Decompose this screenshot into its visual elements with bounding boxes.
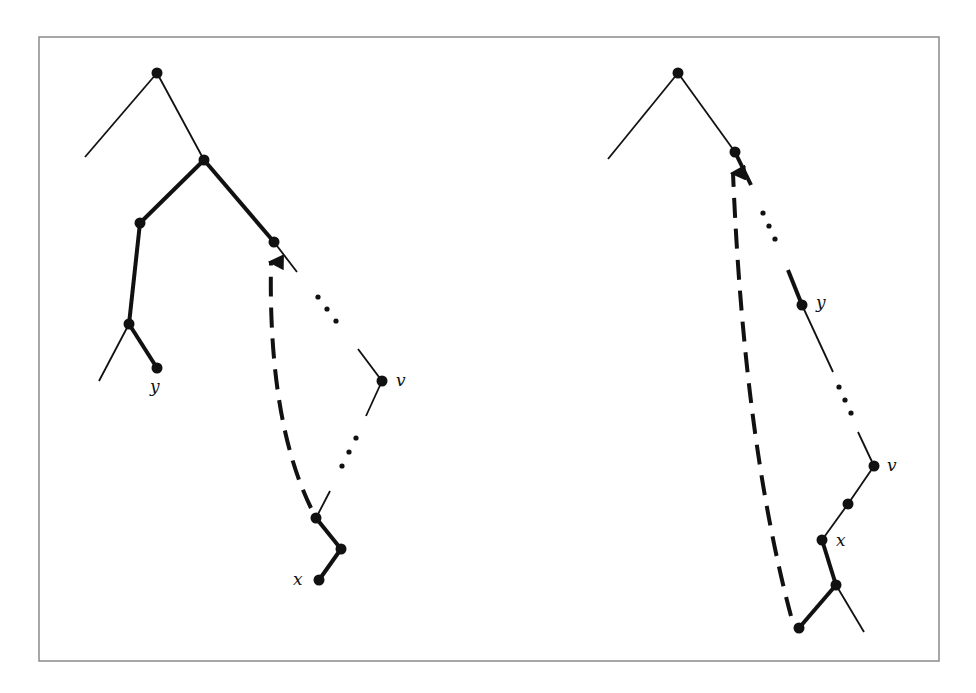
- node: [673, 68, 684, 79]
- edge: [85, 73, 157, 157]
- ellipsis-dots: [836, 384, 853, 415]
- path-edge: [140, 160, 204, 223]
- edge: [678, 73, 735, 152]
- label-y: y: [149, 376, 160, 396]
- node-y: [797, 300, 808, 311]
- label-x: x: [836, 530, 846, 550]
- edge: [157, 73, 204, 160]
- path-edge: [822, 540, 836, 585]
- edge: [274, 242, 297, 272]
- ellipsis-dots: [760, 210, 777, 241]
- label-y: y: [815, 292, 826, 312]
- edge: [802, 305, 833, 372]
- path-edge: [129, 324, 157, 368]
- figure-frame: [39, 37, 939, 661]
- back-edge-arrow: [733, 173, 791, 616]
- edge: [858, 432, 874, 466]
- node-v: [869, 461, 880, 472]
- label-v: v: [887, 455, 897, 475]
- node: [336, 544, 347, 555]
- node: [269, 237, 280, 248]
- node: [730, 147, 741, 158]
- edge: [99, 324, 129, 381]
- right-tree: y v x: [608, 68, 897, 634]
- ellipsis-dots: [315, 294, 338, 323]
- path-edge: [788, 270, 802, 305]
- edge: [836, 585, 864, 632]
- node: [199, 155, 210, 166]
- node: [794, 623, 805, 634]
- path-edge: [799, 585, 836, 628]
- label-x: x: [293, 569, 303, 589]
- path-edge: [316, 518, 341, 549]
- node: [124, 319, 135, 330]
- node: [831, 580, 842, 591]
- edge: [366, 381, 382, 416]
- edge: [608, 73, 678, 159]
- path-edge: [319, 549, 341, 580]
- path-edge: [735, 152, 751, 185]
- back-edge-arrow: [271, 262, 311, 508]
- tree-diagram: y v x y: [0, 0, 976, 693]
- path-edge: [204, 160, 274, 242]
- node-x: [314, 575, 325, 586]
- node-x: [817, 535, 828, 546]
- edge: [358, 349, 382, 381]
- node: [152, 68, 163, 79]
- edge: [848, 466, 874, 504]
- left-tree: y v x: [85, 68, 406, 590]
- node: [135, 218, 146, 229]
- path-edge: [129, 223, 140, 324]
- label-v: v: [396, 370, 406, 390]
- node-y: [152, 363, 163, 374]
- node-v: [377, 376, 388, 387]
- ellipsis-dots: [339, 435, 358, 468]
- node: [311, 513, 322, 524]
- node: [843, 499, 854, 510]
